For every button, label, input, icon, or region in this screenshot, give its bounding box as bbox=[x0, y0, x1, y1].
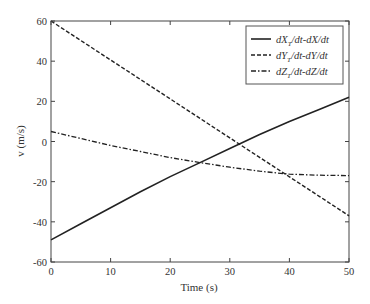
y-tick-label: 40 bbox=[37, 56, 48, 67]
y-tick-label: 60 bbox=[37, 16, 48, 27]
legend: dXT/dt-dX/dtdYT/dt-dY/dtdZT/dt-dZ/dt bbox=[246, 26, 343, 84]
legend-label-main: dZ bbox=[276, 66, 287, 77]
y-tick-label: -40 bbox=[33, 217, 47, 228]
x-tick-label: 20 bbox=[165, 266, 176, 277]
x-tick-label: 50 bbox=[344, 266, 355, 277]
legend-label-main: dX bbox=[276, 34, 288, 45]
y-tick-label: 20 bbox=[37, 96, 48, 107]
legend-label-rest: /dt-dY/dt bbox=[290, 50, 329, 61]
x-tick-label: 40 bbox=[284, 266, 295, 277]
y-tick-label: 0 bbox=[42, 137, 47, 148]
x-tick-label: 10 bbox=[105, 266, 116, 277]
y-axis-label: v (m/s) bbox=[14, 125, 27, 157]
line-chart: 01020304050-60-40-200204060 Time (s) v (… bbox=[0, 0, 370, 304]
legend-label-rest: /dt-dX/dt bbox=[291, 34, 330, 45]
legend-label-rest: /dt-dZ/dt bbox=[290, 66, 329, 77]
y-tick-label: -20 bbox=[33, 177, 47, 188]
x-tick-label: 30 bbox=[225, 266, 236, 277]
y-tick-label: -60 bbox=[33, 257, 47, 268]
x-axis-label: Time (s) bbox=[180, 281, 218, 294]
x-tick-label: 0 bbox=[48, 266, 53, 277]
